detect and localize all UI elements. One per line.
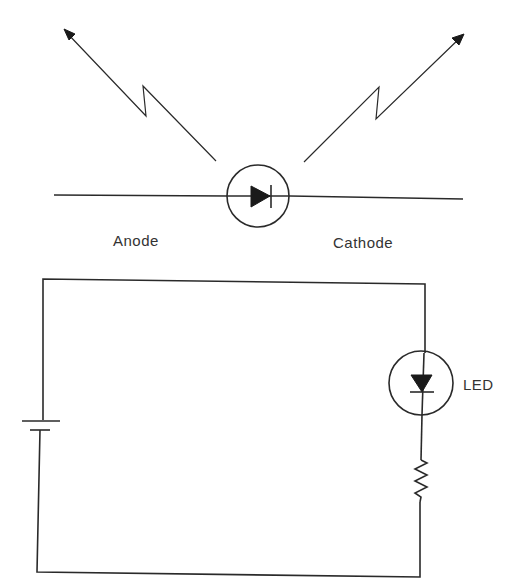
diode-triangle-icon (251, 186, 270, 207)
top-wire (43, 279, 425, 420)
led-diagram: Anode Cathode LED (0, 0, 521, 582)
led-icon (389, 351, 453, 415)
light-arrow-right-icon (304, 34, 464, 162)
led-resistor-wire (421, 415, 422, 460)
anode-label: Anode (113, 232, 159, 249)
cathode-label: Cathode (333, 234, 393, 251)
light-arrow-left-icon (64, 29, 216, 161)
battery-icon (22, 421, 60, 430)
resistor-icon (415, 460, 427, 502)
anode-lead (54, 195, 227, 196)
led-symbol-figure: Anode Cathode (54, 29, 464, 251)
led-label: LED (463, 376, 494, 393)
cathode-lead (290, 196, 463, 199)
bottom-wire (37, 430, 420, 577)
led-circuit: LED (22, 279, 494, 577)
